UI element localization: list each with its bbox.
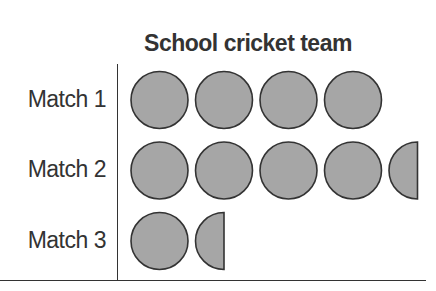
- half-circle-symbol: [389, 142, 418, 199]
- full-circle-symbol: [131, 213, 188, 270]
- full-circle-symbol: [325, 142, 382, 199]
- full-circle-symbol: [131, 72, 188, 129]
- half-circle-symbol: [196, 213, 225, 270]
- full-circle-symbol: [131, 142, 188, 199]
- full-circle-symbol: [196, 142, 253, 199]
- full-circle-symbol: [260, 142, 317, 199]
- full-circle-symbol: [196, 72, 253, 129]
- pictograph-area: [0, 0, 436, 291]
- full-circle-symbol: [325, 72, 382, 129]
- full-circle-symbol: [260, 72, 317, 129]
